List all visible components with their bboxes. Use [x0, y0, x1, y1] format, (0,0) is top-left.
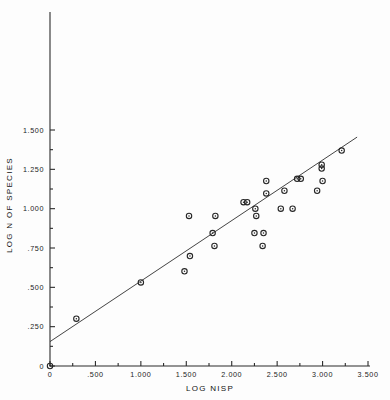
- y-tick-label: .750: [28, 244, 44, 253]
- marker-center-dot: [300, 178, 302, 180]
- marker-center-dot: [322, 180, 324, 182]
- marker-center-dot: [256, 215, 258, 217]
- marker-center-dot: [316, 190, 318, 192]
- x-tick-label: 1.000: [130, 370, 151, 379]
- axis-lines: [50, 12, 370, 366]
- marker-center-dot: [263, 232, 265, 234]
- data-point-marker: [254, 213, 259, 218]
- regression-line-path: [50, 137, 357, 342]
- data-point-marker: [260, 243, 265, 248]
- x-tick-label: 2.000: [221, 370, 242, 379]
- x-tick-label: 0: [48, 370, 53, 379]
- x-tick-label: .500: [87, 370, 103, 379]
- data-point-marker: [261, 230, 266, 235]
- marker-center-dot: [189, 255, 191, 257]
- data-point-marker: [314, 188, 319, 193]
- x-tick-label: 2.500: [267, 370, 288, 379]
- y-tick-label: .250: [28, 322, 44, 331]
- y-axis-title: LOG N OF SPECIES: [5, 157, 14, 253]
- data-point-marker: [252, 230, 257, 235]
- data-point-marker: [339, 148, 344, 153]
- y-tick-label: .500: [28, 283, 44, 292]
- marker-center-dot: [246, 201, 248, 203]
- x-tick-label: 3.000: [312, 370, 333, 379]
- marker-center-dot: [265, 193, 267, 195]
- marker-center-dot: [212, 232, 214, 234]
- x-tick-label: 3.500: [358, 370, 379, 379]
- data-point-marker: [290, 206, 295, 211]
- marker-center-dot: [255, 208, 257, 210]
- marker-center-dot: [321, 168, 323, 170]
- y-tick-label: 1.250: [23, 165, 44, 174]
- marker-center-dot: [321, 164, 323, 166]
- data-point-marker: [213, 213, 218, 218]
- marker-center-dot: [262, 245, 264, 247]
- y-tick-label: 1.500: [23, 126, 44, 135]
- tick-labels: 0.5001.0001.5002.0002.5003.0003.5000.250…: [23, 126, 379, 379]
- marker-center-dot: [76, 318, 78, 320]
- chart-container: 0.5001.0001.5002.0002.5003.0003.5000.250…: [0, 0, 390, 400]
- marker-center-dot: [265, 180, 267, 182]
- x-axis-title: LOG NISP: [186, 384, 234, 393]
- data-point-marker: [264, 178, 269, 183]
- data-point-marker: [264, 191, 269, 196]
- marker-center-dot: [284, 190, 286, 192]
- data-point-marker: [186, 213, 191, 218]
- data-point-marker: [253, 206, 258, 211]
- data-point-marker: [210, 230, 215, 235]
- data-point-marker: [282, 188, 287, 193]
- data-point-marker: [182, 269, 187, 274]
- data-point-marker: [298, 176, 303, 181]
- data-point-marker: [74, 316, 79, 321]
- marker-center-dot: [341, 150, 343, 152]
- marker-center-dot: [280, 208, 282, 210]
- marker-center-dot: [184, 271, 186, 273]
- marker-center-dot: [49, 365, 51, 367]
- marker-center-dot: [188, 215, 190, 217]
- data-point-marker: [212, 243, 217, 248]
- regression-line: [50, 137, 357, 342]
- scatter-plot-svg: 0.5001.0001.5002.0002.5003.0003.5000.250…: [0, 0, 390, 400]
- marker-center-dot: [254, 232, 256, 234]
- data-point-marker: [278, 206, 283, 211]
- y-tick-label: 0: [39, 362, 44, 371]
- tick-marks: [50, 130, 368, 366]
- data-point-marker: [319, 166, 324, 171]
- marker-center-dot: [140, 282, 142, 284]
- data-point-marker: [244, 200, 249, 205]
- data-point-marker: [320, 178, 325, 183]
- x-tick-label: 1.500: [176, 370, 197, 379]
- data-points: [47, 148, 344, 369]
- marker-center-dot: [215, 215, 217, 217]
- y-tick-label: 1.000: [23, 204, 44, 213]
- data-point-marker: [187, 253, 192, 258]
- marker-center-dot: [292, 208, 294, 210]
- marker-center-dot: [214, 245, 216, 247]
